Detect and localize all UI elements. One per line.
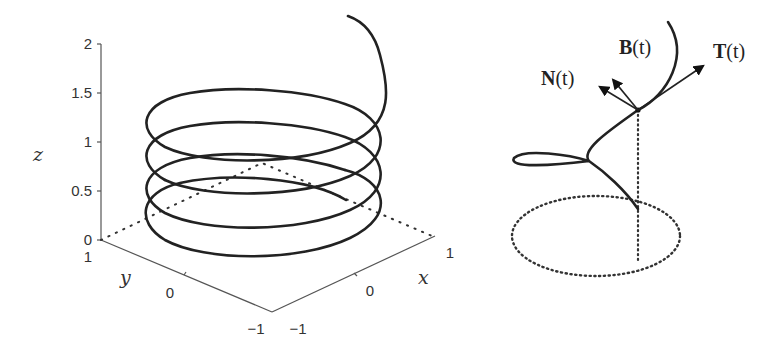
x-tick-1: 1 <box>446 244 454 261</box>
frenet-vectors <box>600 66 703 111</box>
z-axis-label: z <box>32 143 44 165</box>
figure-canvas: 2 1.5 1 0.5 0 z 1 0 −1 y −1 0 1 x <box>0 0 782 353</box>
tangent-vector-arrow <box>638 66 703 110</box>
normal-vector-label: N(t) <box>541 67 574 90</box>
x-axis-label: x <box>418 266 429 288</box>
binormal-vector-label: B(t) <box>619 36 651 59</box>
helix-curve <box>146 16 386 256</box>
z-tick-2: 2 <box>84 35 92 52</box>
y-axis: 1 0 −1 y <box>84 240 272 337</box>
y-axis-label: y <box>119 266 131 288</box>
base-circle-projection <box>512 196 680 276</box>
normal-vector-arrow <box>600 87 638 110</box>
y-tick-0: 0 <box>166 284 174 301</box>
z-tick-1: 1 <box>84 133 92 150</box>
y-tick-neg1: −1 <box>247 320 264 337</box>
y-tick-1: 1 <box>84 248 92 265</box>
z-tick-0: 0 <box>84 231 92 248</box>
x-axis: −1 0 1 x <box>272 236 454 337</box>
z-tick-1-5: 1.5 <box>71 84 92 101</box>
z-tick-0-5: 0.5 <box>71 182 92 199</box>
frenet-curve <box>513 22 676 209</box>
tangent-vector-label: T(t) <box>713 40 745 63</box>
left-helix-plot: 2 1.5 1 0.5 0 z 1 0 −1 y −1 0 1 x <box>32 16 454 337</box>
x-tick-0: 0 <box>366 282 374 299</box>
z-axis: 2 1.5 1 0.5 0 z <box>32 35 101 248</box>
binormal-vector-arrow <box>613 79 638 110</box>
x-tick-neg1: −1 <box>289 320 306 337</box>
right-frenet-plot: N(t) B(t) T(t) <box>512 22 745 276</box>
